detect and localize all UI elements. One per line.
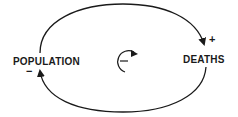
polarity-minus: −	[26, 65, 32, 77]
link-deaths-to-population	[40, 67, 206, 112]
node-population: POPULATION	[13, 56, 80, 67]
link-population-to-deaths	[40, 4, 204, 53]
node-deaths: DEATHS	[183, 54, 225, 65]
polarity-plus: +	[209, 33, 215, 45]
